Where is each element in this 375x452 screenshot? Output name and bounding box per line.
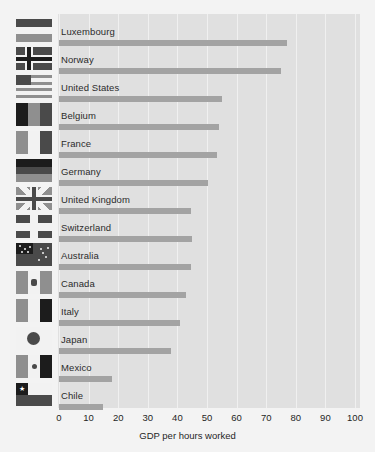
- bar-label-italy: Italy: [61, 306, 79, 318]
- flag-belgium-icon: [16, 103, 52, 126]
- bar-label-norway: Norway: [61, 54, 94, 66]
- bar-label-mexico: Mexico: [61, 362, 92, 374]
- bar-label-united-states: United States: [61, 82, 119, 94]
- bar-france[interactable]: [59, 152, 217, 158]
- bar-label-switzerland: Switzerland: [61, 222, 111, 234]
- bar-row[interactable]: Japan: [58, 334, 360, 362]
- bar-germany[interactable]: [59, 180, 208, 186]
- bar-row[interactable]: Germany: [58, 166, 360, 194]
- bar-rows: LuxembourgNorwayUnited StatesBelgiumFran…: [58, 14, 360, 408]
- bar-australia[interactable]: [59, 264, 191, 270]
- bar-row[interactable]: Canada: [58, 278, 360, 306]
- bar-belgium[interactable]: [59, 124, 219, 130]
- flag-france-icon: [16, 131, 52, 154]
- bar-label-united-kingdom: United Kingdom: [61, 194, 130, 206]
- x-tick-10: 10: [83, 412, 94, 423]
- bar-canada[interactable]: [59, 292, 186, 298]
- x-tick-80: 80: [291, 412, 302, 423]
- flag-norway-icon: [16, 47, 52, 70]
- x-tick-20: 20: [113, 412, 124, 423]
- bar-italy[interactable]: [59, 320, 180, 326]
- bar-mexico[interactable]: [59, 376, 112, 382]
- x-axis: GDP per hours worked 0102030405060708090…: [0, 408, 375, 452]
- x-tick-90: 90: [320, 412, 331, 423]
- flag-united-states-icon: [16, 75, 52, 98]
- x-tick-100: 100: [347, 412, 363, 423]
- flag-united-kingdom-icon: [16, 187, 52, 210]
- bar-label-australia: Australia: [61, 250, 99, 262]
- bar-united-states[interactable]: [59, 96, 222, 102]
- flag-australia-icon: [16, 243, 52, 266]
- bar-row[interactable]: Luxembourg: [58, 26, 360, 54]
- x-tick-30: 30: [143, 412, 154, 423]
- flag-germany-icon: [16, 159, 52, 182]
- bar-label-canada: Canada: [61, 278, 95, 290]
- bar-row[interactable]: Mexico: [58, 362, 360, 390]
- flag-column: ★: [16, 18, 54, 410]
- bar-united-kingdom[interactable]: [59, 208, 191, 214]
- bar-label-france: France: [61, 138, 91, 150]
- bar-row[interactable]: France: [58, 138, 360, 166]
- x-tick-60: 60: [231, 412, 242, 423]
- x-tick-40: 40: [172, 412, 183, 423]
- bar-label-chile: Chile: [61, 390, 83, 402]
- flag-mexico-icon: [16, 355, 52, 378]
- x-axis-label: GDP per hours worked: [0, 430, 375, 441]
- bar-row[interactable]: Australia: [58, 250, 360, 278]
- bar-japan[interactable]: [59, 348, 171, 354]
- bar-luxembourg[interactable]: [59, 40, 287, 46]
- bar-switzerland[interactable]: [59, 236, 192, 242]
- bar-label-belgium: Belgium: [61, 110, 96, 122]
- bar-row[interactable]: Italy: [58, 306, 360, 334]
- x-tick-70: 70: [261, 412, 272, 423]
- flag-japan-icon: [16, 327, 52, 350]
- flag-luxembourg-icon: [16, 19, 52, 42]
- x-tick-50: 50: [202, 412, 213, 423]
- bar-row[interactable]: United States: [58, 82, 360, 110]
- bar-norway[interactable]: [59, 68, 281, 74]
- bar-row[interactable]: Belgium: [58, 110, 360, 138]
- bar-label-germany: Germany: [61, 166, 101, 178]
- bar-row[interactable]: United Kingdom: [58, 194, 360, 222]
- bar-chart: ★ LuxembourgNorwayUnited StatesBelgiumFr…: [0, 0, 375, 452]
- flag-canada-icon: [16, 271, 52, 294]
- flag-switzerland-icon: [16, 215, 52, 238]
- flag-chile-icon: ★: [16, 383, 52, 406]
- bar-row[interactable]: Norway: [58, 54, 360, 82]
- bar-label-luxembourg: Luxembourg: [61, 26, 115, 38]
- flag-italy-icon: [16, 299, 52, 322]
- bar-row[interactable]: Switzerland: [58, 222, 360, 250]
- x-tick-0: 0: [56, 412, 61, 423]
- bar-label-japan: Japan: [61, 334, 87, 346]
